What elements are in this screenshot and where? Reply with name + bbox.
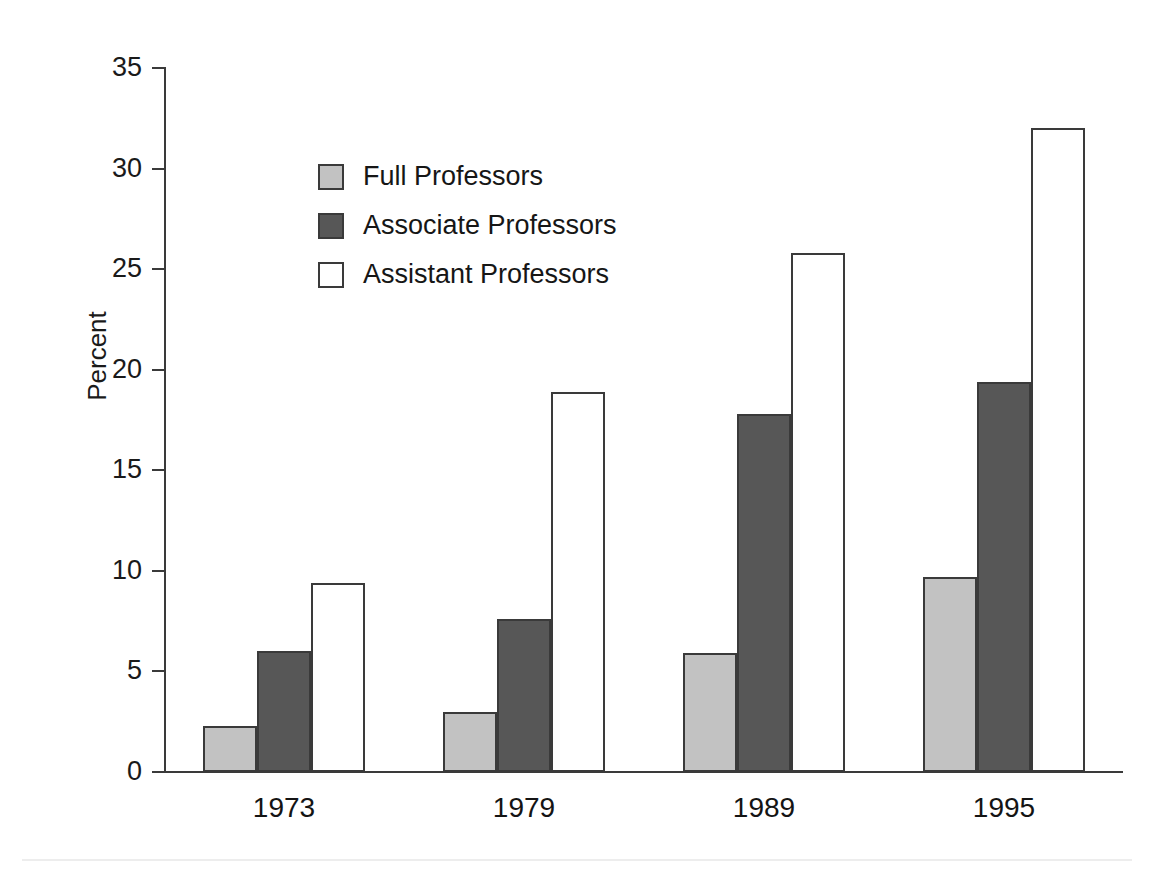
bar-1995-associate-professors [977, 382, 1031, 772]
x-axis-label-1989: 1989 [704, 792, 824, 824]
y-axis-tick-label: 5 [127, 657, 142, 684]
y-axis-tick-label: 20 [112, 356, 142, 383]
y-axis-tick [152, 67, 165, 69]
x-axis-label-1973: 1973 [224, 792, 344, 824]
x-axis-label-1979: 1979 [464, 792, 584, 824]
legend-swatch-icon-associate [318, 213, 344, 239]
plot-area [165, 68, 1120, 772]
chart-page: 05101520253035 Percent 1973197919891995 … [0, 0, 1153, 871]
bar-1989-full-professors [683, 653, 737, 772]
y-axis-tick-label: 30 [112, 155, 142, 182]
y-axis-tick [152, 369, 165, 371]
y-axis-tick [152, 771, 165, 773]
bar-1995-full-professors [923, 577, 977, 772]
legend-label: Associate Professors [363, 210, 617, 241]
y-axis-tick-label: 25 [112, 255, 142, 282]
x-axis-label-1995: 1995 [944, 792, 1064, 824]
bar-1979-assistant-professors [551, 392, 605, 772]
bar-1995-assistant-professors [1031, 128, 1085, 772]
y-axis-tick-label: 0 [127, 758, 142, 785]
legend-swatch-icon-assistant [318, 262, 344, 288]
y-axis-tick-label: 15 [112, 456, 142, 483]
legend-item-associate: Associate Professors [318, 201, 617, 250]
y-axis-tick [152, 570, 165, 572]
bar-1989-associate-professors [737, 414, 791, 772]
footer-divider [22, 859, 1132, 861]
bar-1979-full-professors [443, 712, 497, 772]
y-axis-title: Percent [82, 256, 113, 456]
bar-1973-assistant-professors [311, 583, 365, 772]
y-axis-tick [152, 469, 165, 471]
y-axis-tick-label: 10 [112, 557, 142, 584]
legend-swatch-icon-full [318, 164, 344, 190]
y-axis-tick-label: 35 [112, 54, 142, 81]
chart-legend: Full ProfessorsAssociate ProfessorsAssis… [318, 152, 617, 299]
bar-1979-associate-professors [497, 619, 551, 772]
bar-1973-associate-professors [257, 651, 311, 772]
bar-1973-full-professors [203, 726, 257, 772]
y-axis-tick [152, 268, 165, 270]
legend-item-full: Full Professors [318, 152, 617, 201]
legend-label: Full Professors [363, 161, 543, 192]
y-axis-tick [152, 168, 165, 170]
bar-1989-assistant-professors [791, 253, 845, 772]
y-axis-tick [152, 670, 165, 672]
legend-label: Assistant Professors [363, 259, 609, 290]
legend-item-assistant: Assistant Professors [318, 250, 617, 299]
